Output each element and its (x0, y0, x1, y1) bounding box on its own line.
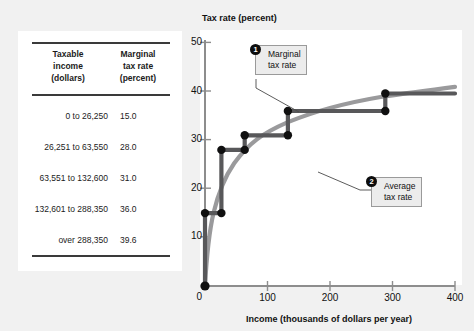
figure-root: Taxable income (dollars) Marginal tax ra… (0, 0, 474, 331)
callout-2-leader (318, 172, 372, 190)
callout-1-badge: 1 (250, 44, 261, 55)
callout-2-line2: tax rate (384, 192, 416, 203)
x-tick-label: 200 (315, 292, 345, 303)
x-tick-label: 400 (440, 292, 470, 303)
callout-marginal-tax-rate: Marginal tax rate (255, 45, 307, 75)
y-tick-label: 40 (180, 85, 202, 96)
x-tick-label: 300 (378, 292, 408, 303)
y-tick-label: 30 (180, 133, 202, 144)
callout-2-badge: 2 (366, 176, 377, 187)
x-tick-label: 100 (253, 292, 283, 303)
callout-1-line2: tax rate (268, 60, 301, 71)
callout-2-line1: Average (384, 181, 416, 192)
y-tick-label: 50 (180, 36, 202, 47)
y-tick-label: 10 (180, 230, 202, 241)
y-tick-label: 0 (180, 291, 202, 302)
callout-1-line1: Marginal (268, 49, 301, 60)
y-tick-label: 20 (180, 182, 202, 193)
callout-average-tax-rate: Average tax rate (371, 177, 422, 207)
chart-svg (0, 0, 474, 331)
callout-1-leader (256, 79, 299, 112)
